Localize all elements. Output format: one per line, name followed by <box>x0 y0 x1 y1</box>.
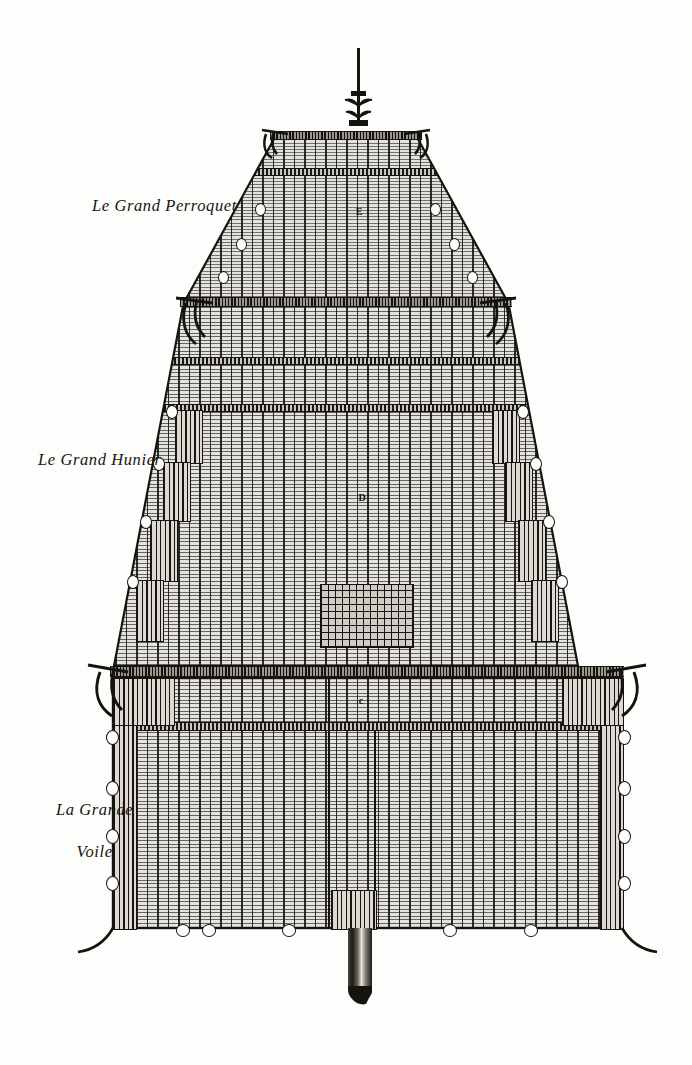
foot-cringle <box>524 924 538 937</box>
cringle <box>618 730 631 745</box>
caption-mainsail: La Grande Voile <box>37 778 133 883</box>
foot-cringle <box>202 924 216 937</box>
main-mast-heel <box>348 928 372 1000</box>
mark-mainsail: c <box>359 695 363 706</box>
mark-topsail: D <box>358 492 365 503</box>
caption-mainsail-line1: La Grande <box>56 800 133 819</box>
topgallant-yard <box>270 131 422 140</box>
caption-mainsail-line2: Voile <box>77 842 113 861</box>
engraving-plate: E D c Le Grand Perroquet Le Grand Hunier… <box>0 0 692 1065</box>
main-yard <box>110 666 624 677</box>
caption-topgallant: Le Grand Perroquet <box>92 196 237 216</box>
clew-patch <box>562 678 624 726</box>
cringle <box>618 876 631 891</box>
caption-topsail: Le Grand Hunier <box>38 450 162 470</box>
main-sail-reef-band <box>100 722 640 731</box>
cringle <box>618 829 631 844</box>
topsail-yard <box>180 297 512 307</box>
foot-cringle <box>282 924 296 937</box>
clew-patch <box>113 678 175 726</box>
bunt-patch-main <box>331 890 377 930</box>
mark-topgallant: E <box>356 206 363 217</box>
cringle <box>618 781 631 796</box>
cringle <box>106 730 119 745</box>
foot-cringle <box>443 924 457 937</box>
mast-truck-spike <box>357 48 360 122</box>
foot-cringle <box>176 924 190 937</box>
